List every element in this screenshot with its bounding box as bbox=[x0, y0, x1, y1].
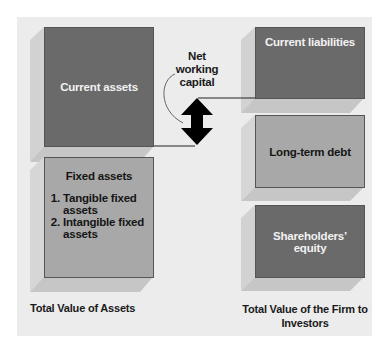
total-assets-label: Total Value of Assets bbox=[30, 302, 160, 314]
list-item: Intangible fixed assets bbox=[63, 216, 153, 240]
net-working-capital-label: Net working capital bbox=[172, 50, 222, 89]
long-term-debt-box: Long-term debt bbox=[255, 115, 365, 188]
fixed-assets-box: Fixed assets Tangible fixed assets Intan… bbox=[44, 157, 154, 278]
total-firm-value-label: Total Value of the Firm to Investors bbox=[240, 302, 370, 330]
shareholders-equity-label: Shareholders’ equity bbox=[256, 230, 364, 254]
current-assets-box: Current assets bbox=[44, 27, 154, 147]
current-assets-label: Current assets bbox=[60, 81, 138, 93]
shareholders-equity-box: Shareholders’ equity bbox=[255, 205, 365, 278]
long-term-debt-label: Long-term debt bbox=[269, 146, 351, 158]
fixed-assets-title: Fixed assets bbox=[66, 170, 133, 182]
fixed-assets-list: Tangible fixed assets Intangible fixed a… bbox=[45, 192, 153, 240]
double-arrow-icon bbox=[181, 98, 213, 145]
current-liabilities-box: Current liabilities bbox=[255, 27, 365, 99]
current-liabilities-label: Current liabilities bbox=[265, 36, 355, 48]
list-item: Tangible fixed assets bbox=[63, 192, 153, 216]
